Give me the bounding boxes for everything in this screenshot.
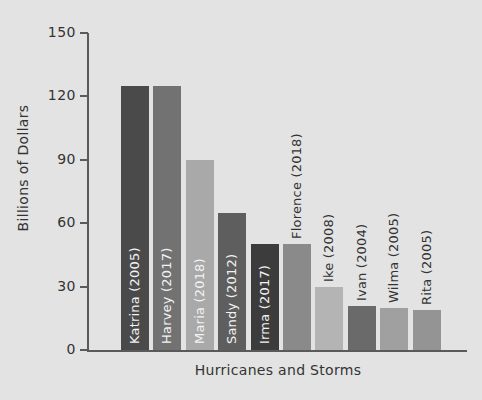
bar-label: Maria (2018) bbox=[192, 258, 207, 344]
bar-label: Ivan (2004) bbox=[354, 223, 369, 300]
bar[interactable] bbox=[348, 306, 376, 350]
bar-group[interactable]: Irma (2017) bbox=[251, 33, 279, 350]
x-axis-title: Hurricanes and Storms bbox=[88, 362, 468, 378]
bar[interactable] bbox=[283, 244, 311, 350]
bar-group[interactable]: Harvey (2017) bbox=[153, 33, 181, 350]
bar-group[interactable]: Maria (2018) bbox=[186, 33, 214, 350]
bar-group[interactable]: Katrina (2005) bbox=[121, 33, 149, 350]
y-tick-mark bbox=[80, 95, 88, 97]
y-tick-label: 150 bbox=[6, 24, 76, 40]
bar-label: Harvey (2017) bbox=[159, 248, 174, 344]
y-tick-label: 0 bbox=[6, 341, 76, 357]
bar-group[interactable]: Wilma (2005) bbox=[380, 33, 408, 350]
bar-group[interactable]: Rita (2005) bbox=[413, 33, 441, 350]
bar-group[interactable]: Sandy (2012) bbox=[218, 33, 246, 350]
plot-area: Katrina (2005)Harvey (2017)Maria (2018)S… bbox=[88, 33, 460, 350]
y-axis-title: Billions of Dollars bbox=[15, 78, 31, 258]
bar-group[interactable]: Ike (2008) bbox=[315, 33, 343, 350]
bar[interactable] bbox=[413, 310, 441, 350]
bar[interactable] bbox=[380, 308, 408, 350]
bar-label: Rita (2005) bbox=[419, 230, 434, 305]
x-axis-line bbox=[87, 350, 467, 352]
bar-label: Wilma (2005) bbox=[386, 213, 401, 303]
bar-label: Sandy (2012) bbox=[224, 254, 239, 344]
bar-label: Ike (2008) bbox=[321, 213, 336, 281]
y-tick-mark bbox=[80, 159, 88, 161]
y-tick-mark bbox=[80, 286, 88, 288]
y-tick-mark bbox=[80, 349, 88, 351]
bar-label: Florence (2018) bbox=[289, 133, 304, 239]
bar-label: Katrina (2005) bbox=[127, 247, 142, 344]
bar-group[interactable]: Ivan (2004) bbox=[348, 33, 376, 350]
y-tick-mark bbox=[80, 222, 88, 224]
y-tick-label: 30 bbox=[6, 278, 76, 294]
bar-label: Irma (2017) bbox=[257, 265, 272, 344]
bar-chart: 0306090120150 Billions of Dollars Katrin… bbox=[0, 0, 482, 400]
bar[interactable] bbox=[315, 287, 343, 350]
y-tick-mark bbox=[80, 32, 88, 34]
bar-group[interactable]: Florence (2018) bbox=[283, 33, 311, 350]
